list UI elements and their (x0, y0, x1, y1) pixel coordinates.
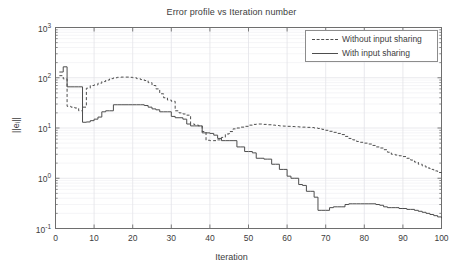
x-tick-label: 0 (53, 233, 58, 243)
x-tick-label: 50 (244, 233, 253, 243)
chart-legend: Without input sharing With input sharing (305, 30, 438, 62)
x-tick-label: 10 (89, 233, 98, 243)
y-tick-label: 100 (20, 172, 51, 184)
legend-line-sample-dashed (312, 34, 338, 44)
x-tick-label: 90 (398, 233, 407, 243)
chart-figure: Error profile vs Iteration number ||ei||… (0, 0, 463, 272)
x-tick-label: 40 (205, 233, 214, 243)
x-axis-label: Iteration (0, 252, 463, 262)
legend-line-sample-solid (312, 48, 338, 58)
legend-label: With input sharing (342, 48, 410, 58)
y-tick-label: 102 (20, 72, 51, 84)
x-tick-label: 100 (434, 233, 448, 243)
y-tick-label: 10-1 (20, 223, 51, 235)
legend-item-with-input-sharing: With input sharing (312, 46, 410, 60)
data-series-group (59, 67, 441, 218)
x-tick-label: 70 (321, 233, 330, 243)
x-tick-label: 20 (128, 233, 137, 243)
series-line-with-input-sharing (59, 67, 441, 218)
x-tick-label: 80 (360, 233, 369, 243)
x-tick-label: 60 (282, 233, 291, 243)
legend-label: Without input sharing (342, 34, 422, 44)
legend-item-without-input-sharing: Without input sharing (312, 32, 422, 46)
chart-title: Error profile vs Iteration number (0, 7, 463, 17)
series-line-without-input-sharing (59, 76, 441, 175)
y-axis-label-tail: || (11, 117, 21, 122)
x-tick-label: 30 (167, 233, 176, 243)
y-tick-label: 101 (20, 122, 51, 134)
y-tick-label: 103 (20, 22, 51, 34)
